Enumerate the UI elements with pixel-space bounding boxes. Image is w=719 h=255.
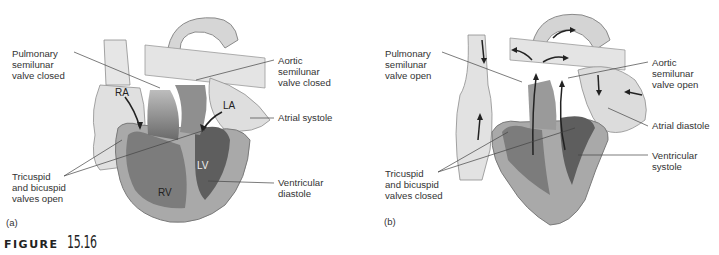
panel-letter-b: (b)	[384, 216, 396, 227]
chamber-rv-label: RV	[158, 187, 172, 198]
figure-caption-number: 15.16	[67, 232, 97, 252]
pulmonary-valve-label: Pulmonary semilunar valve open	[385, 48, 431, 81]
aortic-valve-label: Aortic semilunar valve open	[652, 57, 698, 90]
atrial-phase-label: Atrial diastole	[652, 120, 710, 131]
chamber-ra-label: RA	[115, 87, 129, 98]
panel-letter-a: (a)	[6, 217, 18, 228]
ventricular-phase-label: Ventricular systole	[652, 150, 697, 172]
atrial-phase-label: Atrial systole	[278, 112, 332, 123]
pulmonary-valve-label: Pulmonary semilunar valve closed	[12, 48, 65, 81]
aortic-valve-label: Aortic semilunar valve closed	[278, 55, 331, 88]
ventricular-phase-label: Ventricular diastole	[278, 177, 323, 199]
panel-a-diastole-diagram: Pulmonary semilunar valve closed Aortic …	[0, 0, 360, 230]
panel-b-systole-diagram: Pulmonary semilunar valve open Aortic se…	[360, 0, 719, 230]
figure-caption-word: FIGURE	[4, 238, 59, 251]
av-valves-label: Tricuspid and bicuspid valves closed	[385, 168, 443, 201]
av-valves-label: Tricuspid and bicuspid valves open	[12, 171, 66, 204]
figure-caption: FIGURE 15.16	[4, 232, 108, 254]
chamber-la-label: LA	[223, 100, 235, 111]
chamber-lv-label: LV	[197, 160, 209, 171]
